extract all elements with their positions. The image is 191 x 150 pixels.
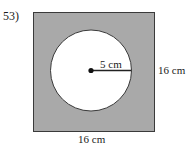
- center-dot: [88, 68, 93, 73]
- square-bottom-side-label: 16 cm: [78, 133, 105, 145]
- square-right-side-label: 16 cm: [158, 64, 185, 76]
- radius-label: 5 cm: [100, 58, 122, 70]
- figure-page: 53) 5 cm 16 cm 16 cm: [0, 0, 191, 150]
